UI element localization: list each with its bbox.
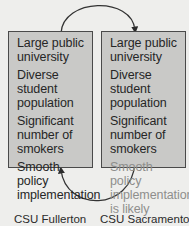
fullerton-item-1: Large public university — [17, 36, 88, 64]
csu-fullerton-label: CSU Fullerton — [14, 213, 86, 225]
fullerton-item-3: Significant number of smokers — [17, 114, 88, 156]
top-arrow-left-to-right-icon — [61, 6, 135, 33]
sacramento-item-1: Large public university — [110, 36, 181, 64]
fullerton-item-2: Diverse student population — [17, 68, 88, 110]
fullerton-item-4: Smooth policy implementation — [17, 160, 88, 202]
csu-sacramento-box: Large public university Diverse student … — [101, 31, 186, 168]
sacramento-item-2: Diverse student population — [110, 68, 181, 110]
sacramento-item-4-faded: Smooth policy implementation is likely — [110, 160, 181, 216]
csu-sacramento-label: CSU Sacramento — [100, 213, 189, 225]
csu-fullerton-box: Large public university Diverse student … — [8, 31, 93, 168]
sacramento-item-3: Significant number of smokers — [110, 114, 181, 156]
